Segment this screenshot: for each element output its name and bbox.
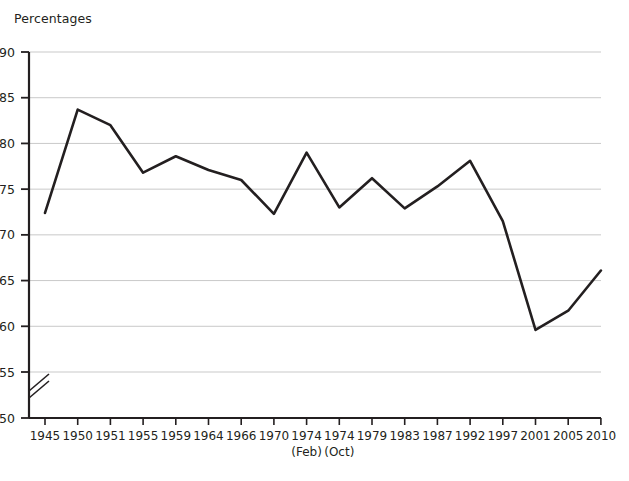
data-series-line xyxy=(45,110,601,330)
x-tick-label: 1970 xyxy=(259,429,290,443)
x-sub-label: (Oct) xyxy=(324,445,354,459)
x-tick-label: 1955 xyxy=(128,429,159,443)
x-tick-label: 1964 xyxy=(193,429,224,443)
y-tick-label: 80 xyxy=(0,136,15,151)
x-tick-label: 1959 xyxy=(161,429,192,443)
x-tick-label: 1966 xyxy=(226,429,257,443)
y-tick-label: 85 xyxy=(0,90,15,105)
y-tick-label: 60 xyxy=(0,319,15,334)
y-axis-break-icon xyxy=(29,374,49,398)
x-tick-label: 2010 xyxy=(586,429,617,443)
line-chart-plot: 908580757065605550 194519501951195519591… xyxy=(0,0,629,481)
x-tick-label: 2005 xyxy=(553,429,584,443)
x-sub-labels-group: (Feb)(Oct) xyxy=(291,445,354,459)
y-tick-label: 75 xyxy=(0,182,15,197)
gridlines-group xyxy=(29,52,601,372)
x-tick-label: 1974 xyxy=(291,429,322,443)
x-tick-label: 1987 xyxy=(422,429,453,443)
x-sub-label: (Feb) xyxy=(291,445,322,459)
x-tick-label: 1950 xyxy=(62,429,93,443)
x-tick-label: 1992 xyxy=(455,429,486,443)
x-tick-labels-group: 1945195019511955195919641966197019741974… xyxy=(30,429,616,443)
x-tick-label: 1974 xyxy=(324,429,355,443)
x-tick-label: 1997 xyxy=(488,429,519,443)
x-axis-group: 1945195019511955195919641966197019741974… xyxy=(29,418,616,459)
y-tick-label: 90 xyxy=(0,45,15,60)
x-tick-label: 2001 xyxy=(520,429,551,443)
x-tick-label: 1951 xyxy=(95,429,126,443)
x-tick-label: 1983 xyxy=(389,429,420,443)
y-tick-labels-group: 908580757065605550 xyxy=(0,45,15,426)
y-tick-label: 65 xyxy=(0,273,15,288)
x-tick-label: 1979 xyxy=(357,429,388,443)
chart-container: Percentages 908580757065605550 194519501… xyxy=(0,0,629,481)
y-tick-marks xyxy=(21,52,29,418)
y-tick-label: 55 xyxy=(0,365,15,380)
x-tick-label: 1945 xyxy=(30,429,61,443)
y-tick-label: 70 xyxy=(0,227,15,242)
y-tick-label: 50 xyxy=(0,411,15,426)
